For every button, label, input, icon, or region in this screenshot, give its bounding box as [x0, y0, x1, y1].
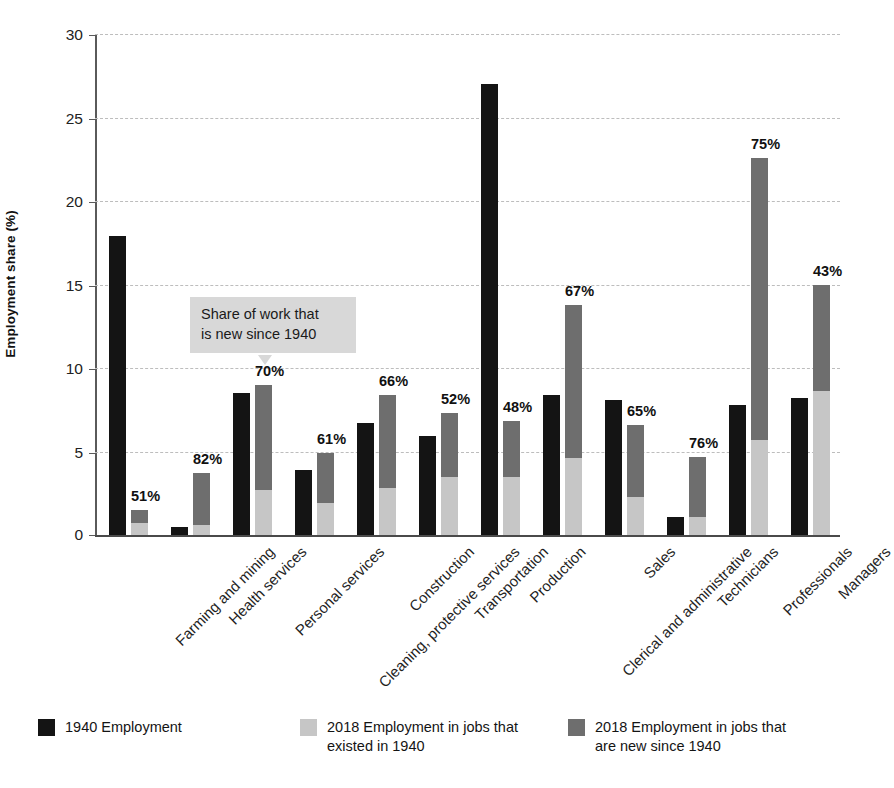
data-label-pct-new: 70%: [255, 363, 272, 379]
bar-2018-stacked[interactable]: [441, 413, 458, 535]
y-tick-label: 30: [66, 26, 83, 44]
bar-group[interactable]: 52%: [419, 34, 459, 535]
y-tick-mark: [89, 453, 95, 454]
x-axis-line: [95, 535, 840, 537]
bar-2018-stacked[interactable]: [813, 285, 830, 536]
segment-jobs-new-since-1940: [379, 395, 396, 489]
bar-2018-stacked[interactable]: [627, 425, 644, 535]
bar-group[interactable]: 61%: [295, 34, 335, 535]
bar-group[interactable]: 48%: [481, 34, 521, 535]
bar-1940-employment[interactable]: [543, 395, 560, 535]
segment-jobs-existed-1940: [565, 458, 582, 535]
segment-jobs-new-since-1940: [131, 510, 148, 523]
segment-jobs-existed-1940: [379, 488, 396, 535]
segment-jobs-existed-1940: [503, 477, 520, 535]
bar-2018-stacked[interactable]: [317, 453, 334, 535]
legend-swatch: [568, 719, 585, 736]
bar-1940-employment[interactable]: [791, 398, 808, 535]
bar-group[interactable]: 76%: [667, 34, 707, 535]
bar-2018-stacked[interactable]: [255, 385, 272, 535]
bar-group[interactable]: 67%: [543, 34, 583, 535]
bar-2018-stacked[interactable]: [565, 305, 582, 535]
segment-jobs-new-since-1940: [193, 473, 210, 525]
data-label-pct-new: 66%: [379, 373, 396, 389]
legend-item[interactable]: 1940 Employment: [38, 718, 300, 737]
bar-group[interactable]: 70%: [233, 34, 273, 535]
segment-jobs-existed-1940: [255, 490, 272, 535]
annotation-callout: Share of work that is new since 1940: [190, 297, 356, 353]
segment-jobs-existed-1940: [317, 503, 334, 535]
segment-jobs-existed-1940: [751, 440, 768, 535]
bar-group[interactable]: 65%: [605, 34, 645, 535]
legend-label: 2018 Employment in jobs that are new sin…: [595, 718, 800, 756]
segment-jobs-new-since-1940: [565, 305, 582, 459]
data-label-pct-new: 67%: [565, 283, 582, 299]
y-tick-mark: [89, 369, 95, 370]
y-tick-label: 0: [74, 526, 83, 544]
x-tick-label: Sales: [640, 543, 679, 582]
segment-jobs-existed-1940: [441, 477, 458, 535]
annotation-line-1: Share of work that: [201, 305, 345, 325]
bar-1940-employment[interactable]: [295, 470, 312, 535]
segment-jobs-new-since-1940: [317, 453, 334, 503]
bar-1940-employment[interactable]: [605, 400, 622, 535]
bar-group[interactable]: 75%: [729, 34, 769, 535]
bar-2018-stacked[interactable]: [379, 395, 396, 535]
y-tick-mark: [89, 286, 95, 287]
segment-jobs-new-since-1940: [751, 158, 768, 440]
bar-1940-employment[interactable]: [481, 84, 498, 535]
bar-2018-stacked[interactable]: [131, 510, 148, 535]
y-tick-mark: [89, 535, 95, 536]
bar-group[interactable]: 82%: [171, 34, 211, 535]
bar-2018-stacked[interactable]: [689, 457, 706, 535]
bar-group[interactable]: 66%: [357, 34, 397, 535]
y-tick-mark: [89, 35, 95, 36]
bar-1940-employment[interactable]: [667, 517, 684, 535]
bar-1940-employment[interactable]: [109, 236, 126, 535]
data-label-pct-new: 51%: [131, 488, 148, 504]
annotation-pointer: [258, 355, 272, 365]
legend-label: 2018 Employment in jobs that existed in …: [327, 718, 532, 756]
bar-2018-stacked[interactable]: [751, 158, 768, 535]
data-label-pct-new: 52%: [441, 391, 458, 407]
segment-jobs-new-since-1940: [627, 425, 644, 497]
legend-swatch: [38, 719, 55, 736]
data-label-pct-new: 76%: [689, 435, 706, 451]
segment-jobs-existed-1940: [131, 523, 148, 535]
legend-item[interactable]: 2018 Employment in jobs that are new sin…: [568, 718, 838, 756]
chart-legend: 1940 Employment2018 Employment in jobs t…: [38, 718, 848, 756]
data-label-pct-new: 48%: [503, 399, 520, 415]
segment-jobs-new-since-1940: [689, 457, 706, 517]
y-tick-label: 20: [66, 193, 83, 211]
segment-jobs-existed-1940: [193, 525, 210, 535]
bar-1940-employment[interactable]: [233, 393, 250, 535]
y-axis-title: Employment share (%): [3, 210, 18, 358]
y-tick-label: 5: [74, 444, 83, 462]
legend-swatch: [300, 719, 317, 736]
segment-jobs-existed-1940: [813, 391, 830, 535]
y-tick-label: 10: [66, 360, 83, 378]
bar-2018-stacked[interactable]: [193, 473, 210, 535]
segment-jobs-new-since-1940: [813, 285, 830, 392]
y-tick-label: 15: [66, 277, 83, 295]
x-tick-label: Clerical and administrative: [619, 543, 755, 679]
legend-label: 1940 Employment: [65, 718, 182, 737]
bar-group[interactable]: 43%: [791, 34, 831, 535]
data-label-pct-new: 82%: [193, 451, 210, 467]
y-tick-mark: [89, 202, 95, 203]
bar-2018-stacked[interactable]: [503, 421, 520, 535]
bar-1940-employment[interactable]: [419, 436, 436, 535]
data-label-pct-new: 65%: [627, 403, 644, 419]
bar-1940-employment[interactable]: [357, 423, 374, 535]
data-label-pct-new: 43%: [813, 263, 830, 279]
segment-jobs-new-since-1940: [503, 421, 520, 476]
annotation-line-2: is new since 1940: [201, 325, 345, 345]
segment-jobs-new-since-1940: [441, 413, 458, 476]
y-tick-mark: [89, 119, 95, 120]
bar-1940-employment[interactable]: [729, 405, 746, 535]
legend-item[interactable]: 2018 Employment in jobs that existed in …: [300, 718, 568, 756]
bar-1940-employment[interactable]: [171, 527, 188, 535]
plot-area: 05101520253051%82%70%61%66%52%48%67%65%7…: [95, 34, 840, 535]
bar-group[interactable]: 51%: [109, 34, 149, 535]
